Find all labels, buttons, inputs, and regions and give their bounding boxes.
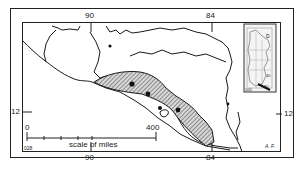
latitude-label-left: 12 — [11, 108, 20, 116]
longitude-label-bottom-90: 90 — [85, 154, 94, 162]
longitude-label-bottom-84: 84 — [206, 154, 215, 162]
author-initials: A. F. — [265, 142, 275, 150]
inset-map — [244, 24, 276, 92]
longitude-label-top-90: 90 — [85, 12, 94, 20]
longitude-label-top-84: 84 — [206, 12, 215, 20]
corner-mark-left: 028 — [24, 144, 32, 152]
inset-label-d: D — [266, 32, 270, 40]
latitude-label-right: 12 — [284, 110, 293, 118]
distribution-range — [94, 71, 214, 146]
inset-label-40: 40 — [266, 72, 270, 80]
inset-label-80: 80 — [264, 83, 268, 91]
scale-end-label: 400 — [146, 124, 159, 132]
scale-start-label: 0 — [25, 124, 29, 132]
scale-caption: scale of miles — [69, 141, 117, 149]
inset-label-100: 100 — [245, 86, 252, 94]
map-drawing — [0, 0, 304, 184]
